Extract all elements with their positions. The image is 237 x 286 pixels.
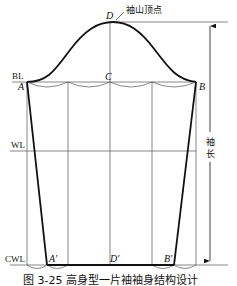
point-c: C (105, 71, 112, 82)
bl-label: BL (12, 71, 24, 81)
sleeve-length-label-1: 袖 (206, 136, 215, 147)
right-seam (174, 82, 196, 265)
cap-top-label: 袖山顶点 (126, 4, 162, 15)
point-d-prime: D′ (109, 253, 120, 264)
point-b: B (199, 81, 205, 92)
point-d: D (105, 10, 114, 21)
sleeve-pattern-diagram: 袖 长 袖山顶点 D C A B A′ D′ B′ BL WL CWL 图 3-… (0, 0, 237, 286)
left-seam (27, 82, 47, 265)
sleeve-length-label-2: 长 (206, 148, 215, 159)
figure-caption: 图 3-25 高身型一片袖袖身结构设计 (23, 273, 198, 286)
bl-arcs (27, 82, 196, 87)
point-a-prime: A′ (48, 253, 58, 264)
wl-label: WL (11, 140, 25, 150)
leader-line (116, 12, 124, 20)
cwl-label: CWL (5, 254, 25, 264)
point-a: A (17, 81, 25, 92)
point-b-prime: B′ (164, 253, 173, 264)
